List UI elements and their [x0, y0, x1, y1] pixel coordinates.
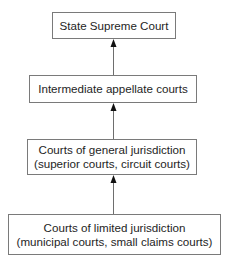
node-state-supreme-court: State Supreme Court — [52, 12, 176, 39]
node-label: Intermediate appellate courts — [38, 82, 188, 96]
node-courts-limited-jurisdiction: Courts of limited jurisdiction (municipa… — [8, 214, 221, 255]
node-sublabel: (superior courts, circuit courts) — [34, 157, 190, 171]
node-intermediate-appellate-courts: Intermediate appellate courts — [29, 75, 197, 103]
node-label: State Supreme Court — [60, 19, 169, 33]
arrow-up-icon — [111, 103, 117, 139]
arrow-up-icon — [111, 175, 117, 214]
node-label: Courts of limited jurisdiction — [44, 221, 186, 235]
arrow-up-icon — [111, 39, 117, 75]
node-courts-general-jurisdiction: Courts of general jurisdiction (superior… — [27, 139, 197, 175]
node-sublabel: (municipal courts, small claims courts) — [17, 235, 213, 249]
court-hierarchy-diagram: State Supreme Court Intermediate appella… — [0, 0, 230, 262]
node-label: Courts of general jurisdiction — [39, 143, 186, 157]
